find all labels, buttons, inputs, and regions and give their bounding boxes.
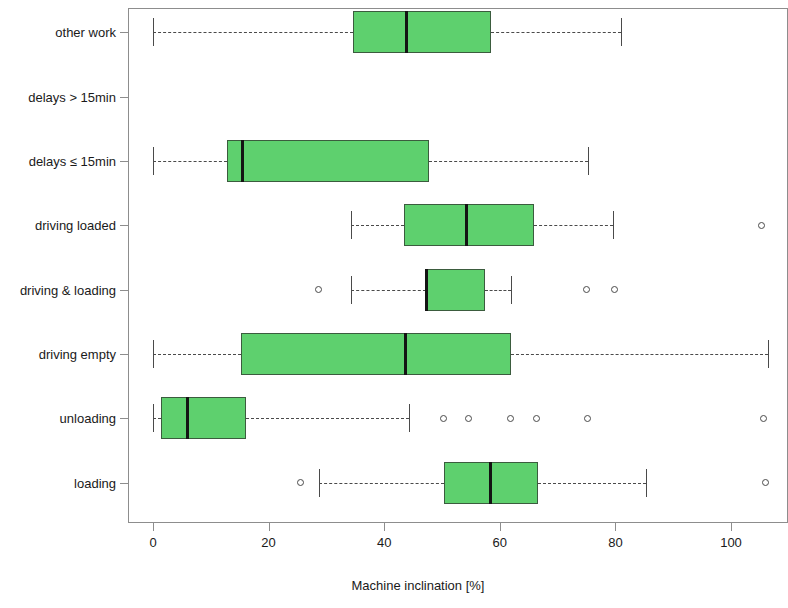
whisker-cap-upper [588,147,589,175]
whisker-cap-upper [511,276,512,304]
whisker-lower [153,354,241,355]
box-iqr [241,333,511,375]
whisker-cap-lower [351,276,352,304]
median-line [425,269,428,311]
whisker-upper [491,32,621,33]
outlier-point [507,415,514,422]
x-axis-tick [731,522,732,531]
y-axis-category-label: unloading [60,412,116,425]
x-axis-tick [615,522,616,531]
y-axis-tick [120,225,129,226]
outlier-point [315,286,322,293]
y-axis-category-label: other work [55,26,116,39]
y-axis: other workdelays > 15mindelays ≤ 15mindr… [129,9,787,522]
x-axis-tick-label: 40 [377,536,391,549]
x-axis-tick [500,522,501,531]
x-axis-tick [384,522,385,531]
x-axis-tick-label: 20 [261,536,275,549]
y-axis-category-label: delays ≤ 15min [29,154,116,167]
whisker-lower [351,290,426,291]
y-axis-tick [120,483,129,484]
whisker-cap-lower [319,469,320,497]
outlier-point [760,415,767,422]
outlier-point [533,415,540,422]
whisker-lower [153,418,161,419]
whisker-upper [511,354,768,355]
y-axis-tick [120,354,129,355]
median-line [489,462,492,504]
plot-area: other workdelays > 15mindelays ≤ 15mindr… [128,8,788,523]
x-axis: 020406080100 [129,9,787,522]
outlier-point [584,415,591,422]
x-axis-title: Machine inclination [%] [128,578,708,593]
median-line [404,333,407,375]
whisker-lower [153,32,353,33]
x-axis-tick [269,522,270,531]
whisker-upper [534,225,613,226]
outlier-point [583,286,590,293]
median-line [241,140,244,182]
box-iqr [161,397,246,439]
x-axis-tick-label: 60 [493,536,507,549]
whisker-lower [351,225,404,226]
whisker-cap-lower [351,211,352,239]
whisker-cap-lower [153,340,154,368]
outlier-point [611,286,618,293]
outlier-point [758,222,765,229]
y-axis-tick [120,161,129,162]
whisker-lower [319,483,444,484]
whisker-cap-upper [621,18,622,46]
whisker-upper [429,161,588,162]
outlier-point [297,479,304,486]
y-axis-category-label: driving empty [39,348,116,361]
y-axis-tick [120,97,129,98]
y-axis-tick [120,32,129,33]
y-axis-category-label: driving & loading [20,283,116,296]
x-axis-tick-label: 0 [149,536,156,549]
whisker-cap-upper [646,469,647,497]
whisker-cap-upper [768,340,769,368]
y-axis-tick [120,418,129,419]
whisker-upper [246,418,409,419]
box-iqr [404,204,534,246]
y-axis-category-label: driving loaded [35,219,116,232]
box-iqr [426,269,485,311]
median-line [465,204,468,246]
whisker-cap-lower [153,18,154,46]
whisker-cap-upper [409,404,410,432]
median-line [186,397,189,439]
whisker-upper [485,290,511,291]
box-iqr [227,140,429,182]
whisker-upper [538,483,646,484]
median-line [405,11,408,53]
whisker-lower [153,161,227,162]
outlier-point [762,479,769,486]
box-iqr [353,11,491,53]
x-axis-tick-label: 80 [608,536,622,549]
x-axis-tick-label: 100 [720,536,742,549]
y-axis-category-label: loading [74,476,116,489]
y-axis-tick [120,290,129,291]
whisker-cap-lower [153,404,154,432]
y-axis-category-label: delays > 15min [28,90,116,103]
whisker-cap-lower [153,147,154,175]
outlier-point [465,415,472,422]
outlier-point [440,415,447,422]
x-axis-tick [153,522,154,531]
whisker-cap-upper [613,211,614,239]
